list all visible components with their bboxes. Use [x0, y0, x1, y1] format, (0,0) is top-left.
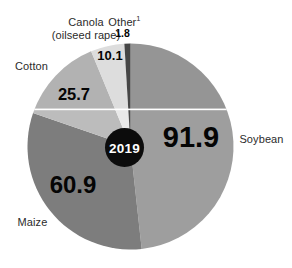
label-soybean: Soybean	[239, 133, 283, 146]
label-canola-line2: (oilseed rape)	[52, 29, 121, 42]
value-cotton: 25.7	[58, 86, 90, 103]
value-maize: 60.9	[50, 173, 97, 197]
horizontal-artifact-line	[0, 109, 292, 111]
label-other-text: Other	[108, 15, 136, 27]
value-other: 1.8	[115, 28, 130, 39]
year-badge-label: 2019	[109, 140, 140, 155]
upper-shade-band	[0, 0, 292, 109]
footnote-marker: 1	[136, 13, 140, 22]
label-cotton: Cotton	[15, 59, 48, 72]
value-soybean: 91.9	[163, 122, 219, 151]
value-canola: 10.1	[97, 49, 122, 62]
pie-chart-figure: Canola (oilseed rape) Other1 1.8 10.1 Co…	[0, 0, 292, 268]
label-maize: Maize	[18, 215, 48, 228]
